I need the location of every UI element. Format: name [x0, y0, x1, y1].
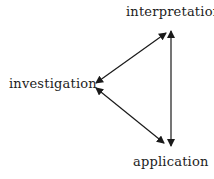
- arrow-investigation-application: [96, 88, 164, 143]
- arrow-investigation-interpretation: [96, 33, 166, 83]
- diagram-arrows: [0, 0, 214, 179]
